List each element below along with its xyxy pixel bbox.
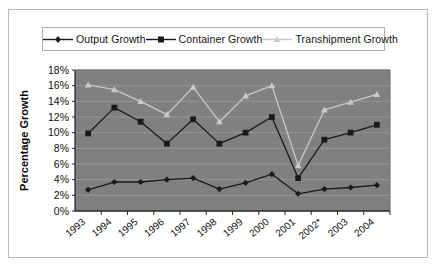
data-point-square (111, 105, 117, 111)
y-axis-tick-label: 18% (48, 64, 69, 76)
x-axis-tick-label: 1999 (221, 216, 245, 239)
y-axis-tick-label: 4% (54, 173, 69, 185)
y-axis-tick-label: 6% (54, 158, 69, 170)
data-point-square (164, 141, 170, 147)
x-axis-tick-label: 1993 (63, 216, 87, 239)
x-axis-tick-label: 2003 (326, 216, 350, 239)
data-point-square (243, 130, 249, 136)
x-axis-tick-label: 1995 (116, 216, 140, 239)
x-axis-tick-label: 2001 (273, 216, 297, 239)
y-axis-tick-label: 16% (48, 79, 69, 91)
x-axis-tick-label: 2004 (352, 216, 376, 239)
y-axis-title: Percentage Growth (18, 90, 30, 191)
chart-plot-container: 18%16%14%12%10%8%6%4%2%0%199319941995199… (8, 9, 428, 258)
line-chart-svg: 18%16%14%12%10%8%6%4%2%0%199319941995199… (8, 9, 428, 258)
y-axis-tick-label: 12% (48, 111, 69, 123)
x-axis-tick-label: 1998 (195, 216, 219, 239)
data-point-square (321, 137, 327, 143)
x-axis-tick-label: 1996 (142, 216, 166, 239)
plot-area-background (75, 70, 390, 211)
y-axis-tick-label: 0% (54, 205, 69, 217)
data-point-square (190, 116, 196, 122)
data-point-square (348, 130, 354, 136)
x-axis-tick-label: 2002* (297, 216, 324, 241)
data-point-square (295, 175, 301, 181)
data-point-square (374, 122, 380, 128)
y-axis-tick-label: 8% (54, 142, 69, 154)
x-axis-tick-label: 2000 (247, 216, 271, 239)
x-axis-tick-label: 1997 (168, 216, 192, 239)
y-axis-tick-label: 14% (48, 95, 69, 107)
data-point-square (269, 114, 275, 120)
chart-page: Output Growth Container Growth Transhipm… (0, 0, 442, 276)
data-point-square (216, 141, 222, 147)
data-point-square (85, 131, 91, 137)
y-axis-tick-label: 2% (54, 189, 69, 201)
data-point-square (138, 119, 144, 125)
x-axis-tick-label: 1994 (90, 216, 114, 239)
y-axis-tick-label: 10% (48, 126, 69, 138)
